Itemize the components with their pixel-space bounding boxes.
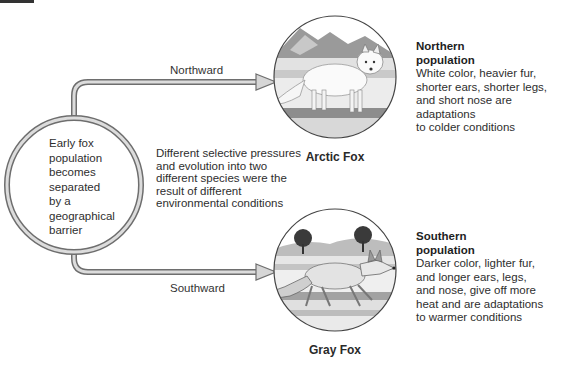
south-connector [74, 253, 276, 280]
southward-label: Southward [170, 282, 225, 294]
southern-heading: Southern [416, 230, 563, 244]
south-arrowhead-icon [256, 264, 276, 280]
northern-population-description: Northern population White color, heavier… [416, 40, 563, 135]
north-arrowhead-icon [256, 74, 276, 90]
gray-fox-caption: Gray Fox [275, 343, 395, 357]
north-connector [74, 74, 276, 117]
gray-fox-illustration [258, 205, 400, 340]
northward-label: Northward [170, 64, 223, 76]
arctic-fox-illustration [270, 10, 400, 148]
source-population-text: Early fox population becomes separated b… [49, 136, 129, 238]
southern-population-description: Southern population Darker color, lighte… [416, 230, 563, 325]
northern-heading: Northern [416, 40, 563, 54]
arctic-fox-caption: Arctic Fox [275, 150, 395, 164]
